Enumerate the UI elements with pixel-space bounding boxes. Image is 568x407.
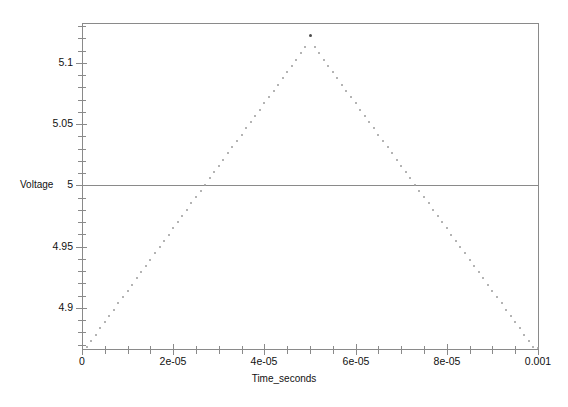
data-point	[222, 159, 224, 161]
x-tick-minor	[492, 346, 493, 354]
y-tick-label: 4.9	[58, 302, 73, 313]
data-point	[478, 271, 480, 273]
data-point	[204, 184, 206, 186]
y-tick-minor	[78, 100, 86, 101]
y-tick-minor	[78, 87, 86, 88]
data-point	[423, 196, 425, 198]
y-tick-minor	[78, 332, 86, 333]
data-point	[90, 340, 92, 342]
x-tick-major	[447, 344, 448, 355]
data-point	[519, 327, 521, 329]
data-point	[213, 171, 215, 173]
data-point	[318, 52, 320, 54]
x-tick-minor	[105, 346, 106, 354]
data-point	[345, 90, 347, 92]
data-point	[149, 259, 151, 261]
y-tick-label: 5.1	[58, 57, 73, 68]
data-point	[437, 215, 439, 217]
data-point	[432, 209, 434, 211]
data-point	[259, 109, 261, 111]
y-tick-label: 4.95	[53, 241, 73, 252]
data-point	[441, 221, 443, 223]
data-point	[286, 71, 288, 73]
y-tick-minor	[78, 296, 86, 297]
data-point	[514, 321, 516, 323]
plot-frame-right	[538, 23, 539, 350]
y-tick-minor	[78, 320, 86, 321]
data-point	[409, 177, 411, 179]
data-point	[523, 334, 525, 336]
y-tick-minor	[78, 210, 86, 211]
data-point	[359, 109, 361, 111]
data-point	[218, 165, 220, 167]
data-point	[450, 234, 452, 236]
y-tick-minor	[78, 112, 86, 113]
data-point	[368, 121, 370, 123]
data-point	[400, 165, 402, 167]
data-point	[405, 171, 407, 173]
data-point	[373, 127, 375, 129]
data-point-peak	[309, 34, 312, 37]
x-tick-minor	[470, 346, 471, 354]
data-point	[496, 296, 498, 298]
data-point	[250, 121, 252, 123]
data-point	[459, 246, 461, 248]
x-tick-minor	[333, 346, 334, 354]
data-point	[487, 284, 489, 286]
data-point	[428, 202, 430, 204]
data-point	[528, 340, 530, 342]
data-point	[323, 59, 325, 61]
data-point	[314, 46, 316, 48]
data-point	[195, 196, 197, 198]
y-tick-minor	[78, 26, 86, 27]
data-point	[99, 327, 101, 329]
y-tick-label: 5.05	[53, 118, 73, 129]
data-point	[414, 184, 416, 186]
data-point	[241, 134, 243, 136]
y-tick-minor	[78, 51, 86, 52]
data-point	[382, 140, 384, 142]
data-point	[341, 84, 343, 86]
data-point	[377, 134, 379, 136]
data-point	[295, 59, 297, 61]
data-point	[86, 346, 88, 348]
data-point	[501, 302, 503, 304]
x-tick-major	[538, 344, 539, 355]
data-point	[186, 209, 188, 211]
y-tick-major	[76, 124, 87, 125]
y-axis-title: Voltage	[20, 180, 53, 190]
y-tick-minor	[78, 222, 86, 223]
x-tick-minor	[424, 346, 425, 354]
data-point	[268, 96, 270, 98]
data-point	[209, 177, 211, 179]
data-point	[263, 102, 265, 104]
data-point	[236, 140, 238, 142]
y-tick-major	[76, 185, 87, 186]
data-point	[154, 252, 156, 254]
data-point	[227, 152, 229, 154]
x-tick-minor	[242, 346, 243, 354]
x-axis-title: Time_seconds	[0, 374, 568, 384]
data-point	[172, 227, 174, 229]
x-tick-label: 4e-05	[251, 356, 278, 367]
data-point	[245, 127, 247, 129]
data-point	[177, 221, 179, 223]
data-point	[131, 284, 133, 286]
data-point	[163, 240, 165, 242]
x-tick-minor	[219, 346, 220, 354]
data-point	[336, 77, 338, 79]
x-tick-major	[173, 344, 174, 355]
y-tick-minor	[78, 283, 86, 284]
data-point	[277, 84, 279, 86]
y-tick-minor	[78, 234, 86, 235]
x-tick-label: 8e-05	[434, 356, 461, 367]
data-point	[181, 215, 183, 217]
data-point	[95, 334, 97, 336]
data-point	[464, 252, 466, 254]
data-point	[455, 240, 457, 242]
data-point	[350, 96, 352, 98]
data-point	[532, 346, 534, 348]
y-tick-minor	[78, 198, 86, 199]
data-point	[387, 146, 389, 148]
data-point	[108, 315, 110, 317]
